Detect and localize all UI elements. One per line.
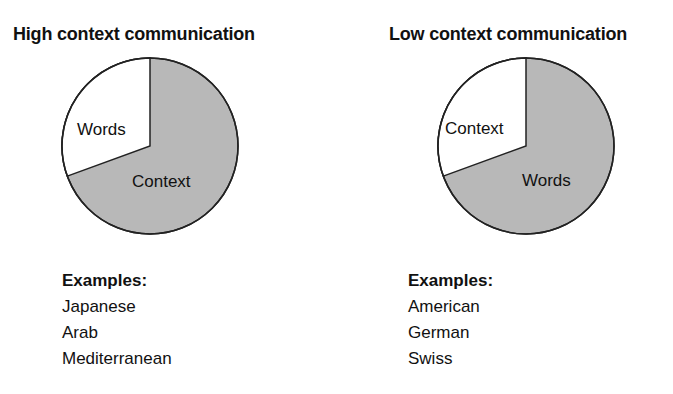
examples-heading: Examples: <box>408 268 493 294</box>
example-item: Mediterranean <box>62 346 172 372</box>
high-context-examples: Examples: Japanese Arab Mediterranean <box>62 268 172 372</box>
example-item: Arab <box>62 320 172 346</box>
low-context-pie: Context Words <box>436 56 616 236</box>
low-context-title: Low context communication <box>389 24 627 45</box>
example-item: German <box>408 320 493 346</box>
examples-heading: Examples: <box>62 268 172 294</box>
low-context-examples: Examples: American German Swiss <box>408 268 493 372</box>
example-item: American <box>408 294 493 320</box>
high-context-pie: Words Context <box>60 56 240 236</box>
low-context-words-label: Words <box>522 171 571 190</box>
example-item: Swiss <box>408 346 493 372</box>
example-item: Japanese <box>62 294 172 320</box>
low-context-context-label: Context <box>445 119 504 138</box>
high-context-title: High context communication <box>13 24 255 45</box>
high-context-context-label: Context <box>132 172 191 191</box>
high-context-words-label: Words <box>77 120 126 139</box>
